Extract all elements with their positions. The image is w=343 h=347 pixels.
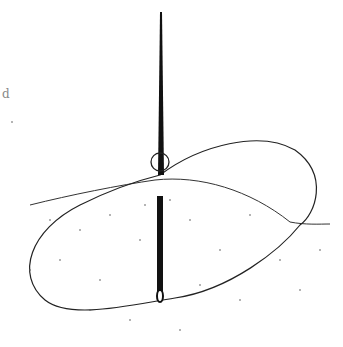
surface-line [30, 179, 330, 224]
needle-upper [158, 12, 164, 175]
needle-thread-drawing: d [0, 0, 343, 347]
needle-eye [157, 290, 163, 302]
illustration-canvas: d [0, 0, 343, 347]
needle-lower [157, 196, 163, 291]
thread-loop [30, 141, 317, 310]
margin-mark: d [2, 87, 10, 101]
